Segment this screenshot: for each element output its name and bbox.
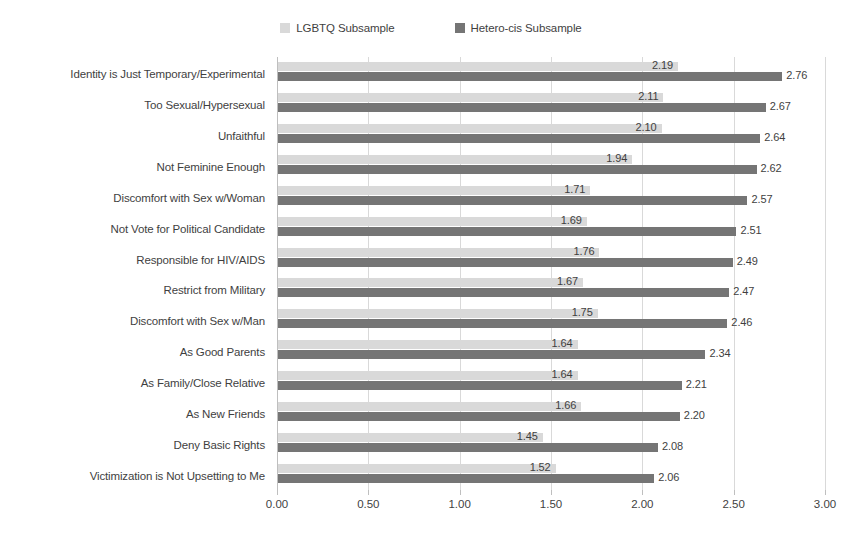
category-label: Deny Basic Rights: [0, 439, 265, 451]
bar-hetero-cis-subsample: [278, 319, 727, 328]
bar-lgbtq-subsample: [278, 278, 583, 287]
x-axis-tick-label: 1.00: [448, 498, 470, 510]
category-label: As Family/Close Relative: [0, 377, 265, 389]
category-label: Identity is Just Temporary/Experimental: [0, 68, 265, 80]
value-label-hetero-cis: 2.51: [735, 226, 761, 235]
value-label-lgbtq: 1.66: [555, 401, 580, 410]
bar-hetero-cis-subsample: [278, 165, 757, 174]
x-axis-tick-label: 3.00: [814, 498, 836, 510]
value-label-lgbtq: 1.52: [530, 463, 555, 472]
value-label-lgbtq: 1.75: [572, 308, 597, 317]
value-label-lgbtq: 1.71: [564, 185, 589, 194]
x-axis-tick-label: 0.50: [357, 498, 379, 510]
value-label-hetero-cis: 2.49: [732, 257, 758, 266]
value-label-lgbtq: 2.10: [636, 123, 661, 132]
bar-lgbtq-subsample: [278, 248, 599, 257]
value-label-hetero-cis: 2.76: [781, 71, 807, 80]
bar-lgbtq-subsample: [278, 433, 543, 442]
x-axis-tick: [825, 490, 826, 495]
value-label-lgbtq: 1.69: [561, 216, 586, 225]
category-label: Not Vote for Political Candidate: [0, 223, 265, 235]
bar-lgbtq-subsample: [278, 340, 578, 349]
gridline: [368, 57, 369, 490]
category-label: Not Feminine Enough: [0, 161, 265, 173]
x-axis-tick: [551, 490, 552, 495]
bar-hetero-cis-subsample: [278, 412, 680, 421]
bar-hetero-cis-subsample: [278, 381, 682, 390]
value-label-hetero-cis: 2.47: [728, 287, 754, 296]
bar-hetero-cis-subsample: [278, 227, 736, 236]
gridline: [734, 57, 735, 490]
value-label-lgbtq: 1.94: [606, 154, 631, 163]
x-axis-tick-label: 1.50: [540, 498, 562, 510]
value-label-hetero-cis: 2.34: [704, 349, 730, 358]
gridline: [277, 57, 278, 490]
value-label-lgbtq: 2.19: [652, 61, 677, 70]
category-label: Discomfort with Sex w/Woman: [0, 192, 265, 204]
bar-lgbtq-subsample: [278, 309, 598, 318]
bar-lgbtq-subsample: [278, 186, 590, 195]
value-label-hetero-cis: 2.62: [756, 164, 782, 173]
bar-hetero-cis-subsample: [278, 288, 729, 297]
bar-lgbtq-subsample: [278, 402, 581, 411]
value-label-hetero-cis: 2.06: [653, 473, 679, 482]
bar-hetero-cis-subsample: [278, 443, 658, 452]
bar-lgbtq-subsample: [278, 93, 663, 102]
category-label: Too Sexual/Hypersexual: [0, 99, 265, 111]
category-label: Responsible for HIV/AIDS: [0, 254, 265, 266]
category-label: As New Friends: [0, 408, 265, 420]
value-label-lgbtq: 1.64: [552, 370, 577, 379]
category-label: Discomfort with Sex w/Man: [0, 315, 265, 327]
value-label-lgbtq: 1.76: [573, 247, 598, 256]
bar-lgbtq-subsample: [278, 155, 632, 164]
x-axis-tick: [277, 490, 278, 495]
x-axis-tick: [368, 490, 369, 495]
bar-hetero-cis-subsample: [278, 474, 654, 483]
bar-lgbtq-subsample: [278, 217, 587, 226]
bar-lgbtq-subsample: [278, 464, 556, 473]
value-label-lgbtq: 2.11: [638, 92, 662, 101]
x-axis-tick-label: 2.50: [722, 498, 744, 510]
x-axis-tick-label: 0.00: [266, 498, 288, 510]
value-label-hetero-cis: 2.20: [679, 411, 705, 420]
bar-hetero-cis-subsample: [278, 196, 747, 205]
gridline: [825, 57, 826, 490]
bar-hetero-cis-subsample: [278, 350, 705, 359]
bar-hetero-cis-subsample: [278, 134, 760, 143]
bar-hetero-cis-subsample: [278, 103, 766, 112]
value-label-lgbtq: 1.67: [557, 277, 582, 286]
category-label: As Good Parents: [0, 346, 265, 358]
bar-lgbtq-subsample: [278, 371, 578, 380]
bar-chart: Identity is Just Temporary/ExperimentalT…: [0, 0, 862, 546]
plot-grid: 2.192.762.112.672.102.641.942.621.712.57…: [277, 57, 825, 490]
x-axis-tick: [734, 490, 735, 495]
value-label-hetero-cis: 2.46: [726, 318, 752, 327]
x-axis-tick: [642, 490, 643, 495]
value-label-hetero-cis: 2.67: [765, 102, 791, 111]
gridline: [460, 57, 461, 490]
bar-lgbtq-subsample: [278, 62, 678, 71]
category-axis-labels: Identity is Just Temporary/ExperimentalT…: [0, 57, 271, 490]
category-label: Unfaithful: [0, 130, 265, 142]
value-label-hetero-cis: 2.57: [746, 195, 772, 204]
x-axis: 0.000.501.001.502.002.503.00: [277, 490, 825, 520]
x-axis-tick-label: 2.00: [631, 498, 653, 510]
value-label-hetero-cis: 2.21: [681, 380, 707, 389]
value-label-hetero-cis: 2.08: [657, 442, 683, 451]
category-label: Victimization is Not Upsetting to Me: [0, 470, 265, 482]
x-axis-tick: [460, 490, 461, 495]
category-label: Restrict from Military: [0, 284, 265, 296]
value-label-lgbtq: 1.64: [552, 339, 577, 348]
value-label-lgbtq: 1.45: [517, 432, 542, 441]
bar-hetero-cis-subsample: [278, 258, 733, 267]
gridline: [551, 57, 552, 490]
bar-lgbtq-subsample: [278, 124, 662, 133]
value-label-hetero-cis: 2.64: [759, 133, 785, 142]
bar-hetero-cis-subsample: [278, 72, 782, 81]
